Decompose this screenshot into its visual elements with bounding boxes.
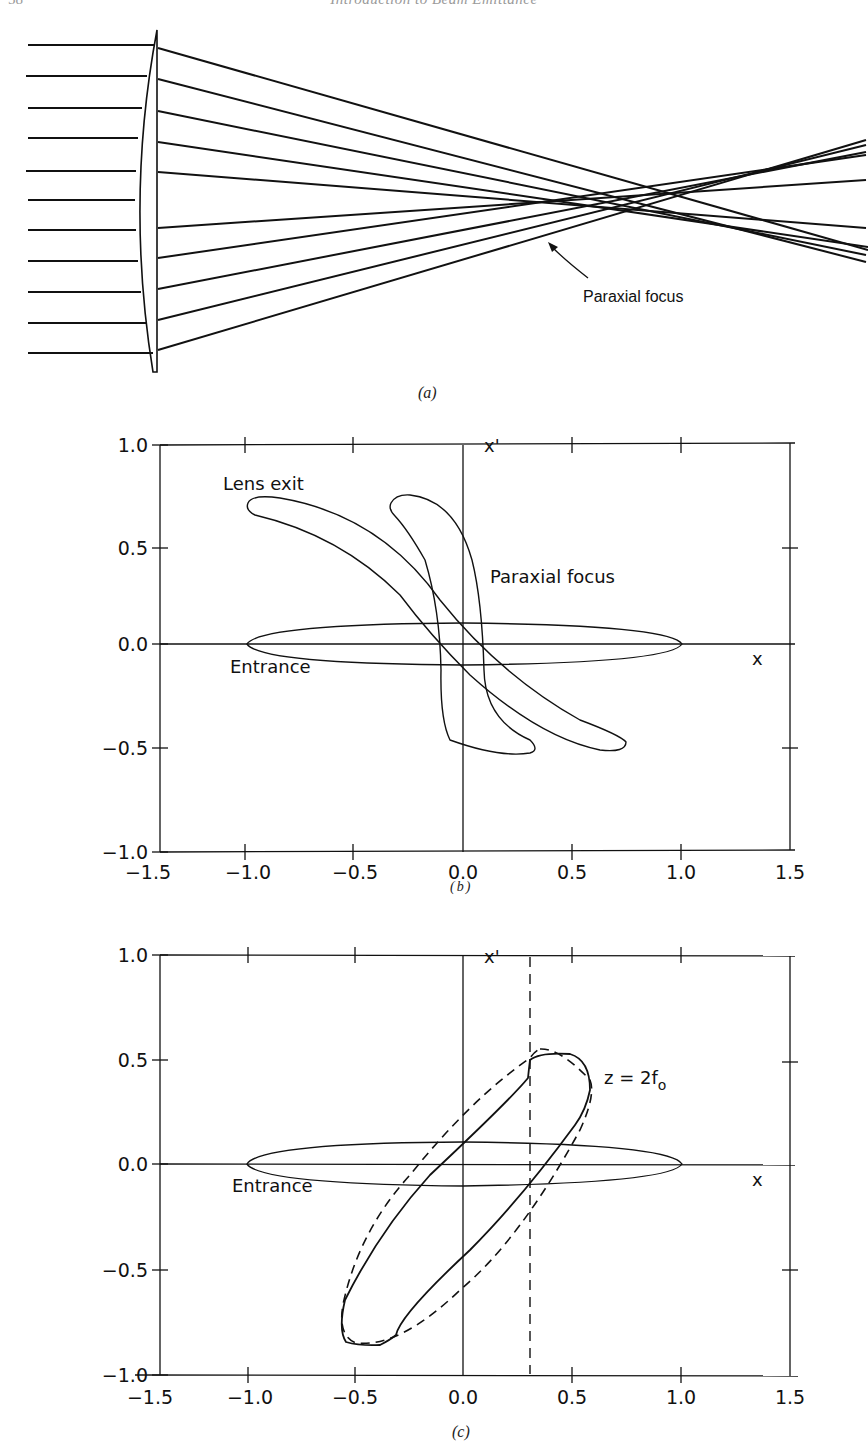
svg-text:1.0: 1.0 [118,434,148,456]
curves-b [247,495,682,754]
entrance-label-c: Entrance [232,1175,313,1196]
svg-text:−0.5: −0.5 [332,1386,378,1408]
svg-text:0.0: 0.0 [118,1153,148,1175]
svg-text:1.0: 1.0 [118,944,148,966]
figure-c-phase-space: 1.0 0.5 0.0 −0.5 −1.0 −1.5 −1.0 −0.5 0.0… [0,930,868,1450]
curves-c [247,957,682,1374]
lens-shape [140,30,157,372]
svg-text:−1.5: −1.5 [125,861,171,883]
svg-text:0.5: 0.5 [118,537,148,559]
svg-text:1.5: 1.5 [775,1386,805,1408]
axes-frame-c [135,955,798,1376]
svg-text:0.0: 0.0 [448,1386,478,1408]
caption-b: (b) [450,879,472,895]
figure-a-ray-diagram: Paraxial focus [0,0,868,400]
xprime-axis-label-c: x' [484,946,500,967]
svg-text:0.5: 0.5 [557,1386,587,1408]
svg-text:−0.5: −0.5 [102,737,148,759]
x-axis-label-c: x [752,1169,763,1190]
svg-text:−0.5: −0.5 [332,861,378,883]
caption-a: (a) [418,384,437,402]
svg-text:1.0: 1.0 [666,1386,696,1408]
svg-text:0.5: 0.5 [118,1049,148,1071]
incoming-rays [26,45,155,353]
axes-frame [160,443,795,852]
y-tick-labels-c: 1.0 0.5 0.0 −0.5 −1.0 [102,944,148,1386]
paraxial-focus-pointer [552,247,588,278]
entrance-label-b: Entrance [230,656,311,677]
svg-text:−1.0: −1.0 [102,841,148,863]
svg-text:0.5: 0.5 [557,861,587,883]
figure-b-phase-space: 1.0 0.5 0.0 −0.5 −1.0 −1.5 −1.0 −0.5 0.0… [0,420,868,910]
svg-text:−1.0: −1.0 [102,1364,148,1386]
enclosing-ellipse-dashed [342,1049,592,1343]
svg-text:1.5: 1.5 [775,861,805,883]
svg-text:−1.5: −1.5 [127,1386,173,1408]
paraxial-focus-label-b: Paraxial focus [490,566,615,587]
caption-c: (c) [452,1423,470,1441]
refracted-rays [158,48,868,350]
svg-text:−1.0: −1.0 [225,861,271,883]
x-axis-label: x [752,648,763,669]
y-tick-labels: 1.0 0.5 0.0 −0.5 −1.0 [102,434,148,863]
xprime-axis-label: x' [484,435,500,456]
svg-text:1.0: 1.0 [666,861,696,883]
aberrated-curve-z2f0 [342,1054,590,1346]
z-label: z = 2fo [604,1067,666,1093]
x-tick-labels-c: −1.5 −1.0 −0.5 0.0 0.5 1.0 1.5 [127,1386,805,1408]
svg-text:−0.5: −0.5 [102,1259,148,1281]
lens-exit-label: Lens exit [223,473,304,494]
svg-text:−1.0: −1.0 [227,1386,273,1408]
paraxial-focus-label: Paraxial focus [583,288,684,305]
svg-text:0.0: 0.0 [118,633,148,655]
